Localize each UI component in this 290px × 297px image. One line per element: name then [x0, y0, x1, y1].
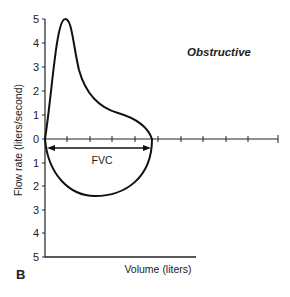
fvc-arrow-right-icon: [143, 145, 151, 151]
svg-text:5: 5: [33, 251, 39, 263]
svg-text:1: 1: [33, 157, 39, 169]
x-axis-label: Volume (liters): [124, 263, 191, 275]
svg-text:4: 4: [33, 37, 39, 49]
expiratory-curve: [45, 19, 152, 139]
fvc-arrow-left-icon: [47, 145, 55, 151]
y-tick-labels: 5 4 3 2 1 0 1 2 3 4 5: [33, 13, 39, 263]
flow-volume-chart: 5 4 3 2 1 0 1 2 3 4 5 FVC Obstructive Fl…: [0, 0, 290, 297]
y-axis-label: Flow rate (liters/second): [12, 84, 24, 196]
svg-text:5: 5: [33, 13, 39, 25]
svg-text:3: 3: [33, 204, 39, 216]
svg-text:0: 0: [33, 133, 39, 145]
chart-title: Obstructive: [187, 46, 252, 58]
panel-label: B: [16, 267, 25, 282]
svg-text:2: 2: [33, 180, 39, 192]
svg-text:2: 2: [33, 85, 39, 97]
svg-text:4: 4: [33, 227, 39, 239]
svg-text:3: 3: [33, 61, 39, 73]
fvc-label: FVC: [92, 154, 113, 166]
svg-text:1: 1: [33, 109, 39, 121]
